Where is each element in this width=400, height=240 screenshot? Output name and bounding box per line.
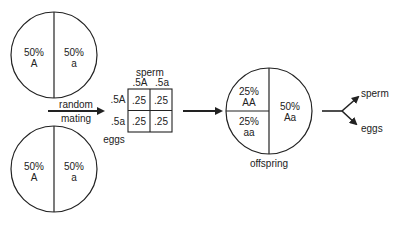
- genotype-text: Aa: [277, 112, 303, 123]
- pct-text: 50%: [62, 47, 86, 58]
- allele-text: a: [62, 58, 86, 69]
- output-branch-arrows: [322, 97, 358, 124]
- offspring-top-left-label: 25% AA: [236, 86, 262, 108]
- genotype-text: AA: [236, 97, 262, 108]
- offspring-bottom-left-label: 25% aa: [236, 116, 262, 138]
- output-sperm-label: sperm: [361, 88, 389, 99]
- allele-text: A: [22, 58, 46, 69]
- pct-text: 50%: [62, 161, 86, 172]
- pct-text: 50%: [277, 101, 303, 112]
- offspring-right-label: 50% Aa: [277, 101, 303, 123]
- bottom-parent-right-label: 50% a: [62, 161, 86, 183]
- mating-line1: random: [56, 99, 96, 110]
- allele-text: a: [62, 172, 86, 183]
- allele-text: A: [22, 172, 46, 183]
- genotype-text: aa: [236, 127, 262, 138]
- punnett-row-header-1: .5A: [108, 94, 128, 105]
- punnett-row-header-2: .5a: [108, 116, 128, 127]
- pct-text: 25%: [236, 116, 262, 127]
- punnett-col-header-1: .5A: [131, 77, 149, 88]
- pct-text: 25%: [236, 86, 262, 97]
- bottom-parent-left-label: 50% A: [22, 161, 46, 183]
- output-eggs-label: eggs: [361, 123, 383, 134]
- mating-line2: mating: [56, 113, 96, 124]
- punnett-row-title: eggs: [103, 134, 125, 145]
- punnett-cell: .25: [128, 116, 150, 127]
- random-mating-label: random mating: [56, 99, 96, 124]
- offspring-label: offspring: [249, 158, 289, 169]
- punnett-col-header-2: .5a: [153, 77, 171, 88]
- top-parent-right-label: 50% a: [62, 47, 86, 69]
- top-parent-left-label: 50% A: [22, 47, 46, 69]
- pct-text: 50%: [22, 161, 46, 172]
- punnett-cell: .25: [150, 95, 172, 106]
- punnett-cell: .25: [150, 116, 172, 127]
- punnett-cell: .25: [128, 95, 150, 106]
- pct-text: 50%: [22, 47, 46, 58]
